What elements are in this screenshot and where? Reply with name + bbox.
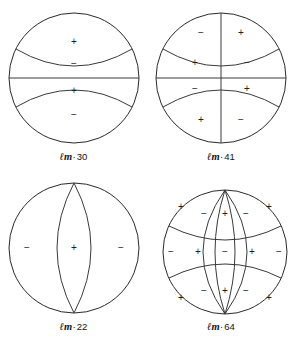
sign-region: − [192, 83, 198, 94]
sign-region: + [249, 246, 255, 257]
sign-region: + [192, 57, 198, 68]
sign-region: + [244, 83, 250, 94]
sign-region: + [71, 85, 77, 96]
sign-region: − [201, 285, 207, 296]
label-value: 41 [224, 151, 235, 162]
latitude-curve-upper [169, 226, 281, 240]
sphere-lm22: − + − [0, 170, 147, 320]
harmonic-label-lm41: ℓm·41 [207, 151, 235, 162]
ell-symbol: ℓm [207, 321, 220, 332]
harmonic-label-lm64: ℓm·64 [207, 321, 235, 332]
label-value: 30 [77, 151, 88, 162]
sign-region: + [266, 201, 272, 212]
harmonic-panel-lm64: + − + − + − + − + − + − + − + ℓm·64 [147, 170, 295, 341]
sign-region: − [201, 208, 207, 219]
harmonic-panel-lm41: − + + − − + + − ℓm·41 [147, 0, 295, 170]
sphere-lm30: + − + − [0, 0, 147, 150]
label-value: 64 [224, 321, 235, 332]
label-value: 22 [77, 321, 88, 332]
sign-region: + [195, 246, 201, 257]
sign-region: − [222, 246, 228, 257]
sign-region: − [168, 246, 174, 257]
sign-region: + [222, 285, 228, 296]
sign-region: + [198, 114, 204, 125]
sign-region: − [243, 285, 249, 296]
harmonic-panel-lm22: − + − ℓm·22 [0, 170, 147, 341]
sign-region: + [266, 292, 272, 303]
sign-region: − [238, 114, 244, 125]
sign-region: − [118, 242, 124, 253]
sphere-lm41: − + + − − + + − [147, 0, 295, 150]
sign-region: − [71, 58, 77, 69]
harmonic-panel-lm30: + − + − ℓm·30 [0, 0, 147, 170]
harmonic-label-lm30: ℓm·30 [59, 151, 87, 162]
sign-region: − [71, 109, 77, 120]
latitude-curve-lower [169, 264, 281, 278]
sign-region: + [178, 201, 184, 212]
sign-region: − [276, 246, 282, 257]
sign-region: + [238, 27, 244, 38]
ell-symbol: ℓm [207, 151, 220, 162]
ell-symbol: ℓm [59, 151, 72, 162]
harmonic-figure-grid: + − + − ℓm·30 − + + − − [0, 0, 295, 341]
sign-region: − [198, 27, 204, 38]
ell-symbol: ℓm [59, 321, 72, 332]
sphere-lm64: + − + − + − + − + − + − + − + [147, 170, 295, 320]
sign-region: − [244, 57, 250, 68]
sign-region: + [222, 208, 228, 219]
sign-region: + [71, 36, 77, 47]
sign-region: + [71, 242, 77, 253]
sign-region: − [243, 208, 249, 219]
sign-region: − [24, 242, 30, 253]
harmonic-label-lm22: ℓm·22 [59, 321, 87, 332]
sign-region: + [178, 292, 184, 303]
